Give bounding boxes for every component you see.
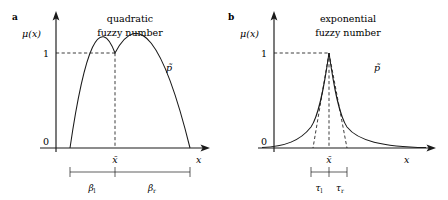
panel-b-left-spread-sub: l	[321, 187, 323, 194]
panel-b-tick-zero: 0	[261, 136, 267, 147]
panel-b-right-spread-label: τr	[336, 183, 344, 194]
panel-a-title-line1: quadratic	[107, 13, 153, 24]
panel-b-right-spread-sub: r	[341, 187, 344, 194]
panel-a-right-spread-label: βr	[147, 183, 156, 194]
panel-b-x-axis-label: x	[404, 154, 410, 165]
panel-b-center-label: x̄	[326, 154, 332, 165]
panel-a-tick-zero: 0	[43, 136, 49, 147]
panel-b-letter: b	[228, 12, 234, 22]
panel-b: b exponential fuzzy number μ(x) x 1 0 p̃…	[228, 11, 436, 194]
panel-a-curve-label: p̃	[166, 62, 172, 73]
panel-a: a quadratic fuzzy number μ(x) x 1 0 p̃ x…	[12, 11, 210, 194]
fuzzy-number-figure: a quadratic fuzzy number μ(x) x 1 0 p̃ x…	[0, 0, 448, 200]
panel-b-title-line2: fuzzy number	[315, 27, 381, 38]
panel-b-tick-one: 1	[261, 48, 267, 59]
panel-a-y-axis-label: μ(x)	[22, 28, 41, 39]
panel-a-title-line2: fuzzy number	[97, 27, 163, 38]
panel-b-title-line1: exponential	[320, 13, 376, 24]
panel-a-quadratic-curve	[70, 33, 190, 148]
panel-a-left-spread-label: βl	[87, 183, 95, 194]
panel-a-x-axis-label: x	[196, 154, 202, 165]
panel-a-right-spread-sub: r	[153, 187, 156, 194]
panel-a-left-spread-sub: l	[94, 187, 96, 194]
panel-a-tick-one: 1	[43, 48, 49, 59]
figure-container: a quadratic fuzzy number μ(x) x 1 0 p̃ x…	[0, 0, 448, 200]
panel-a-center-label: x̄	[112, 154, 118, 165]
panel-b-exponential-curve	[262, 53, 426, 148]
panel-b-curve-label: p̃	[374, 62, 380, 73]
panel-a-letter: a	[12, 12, 18, 22]
panel-b-y-axis-label: μ(x)	[240, 28, 259, 39]
panel-b-left-spread-label: τl	[316, 183, 323, 194]
